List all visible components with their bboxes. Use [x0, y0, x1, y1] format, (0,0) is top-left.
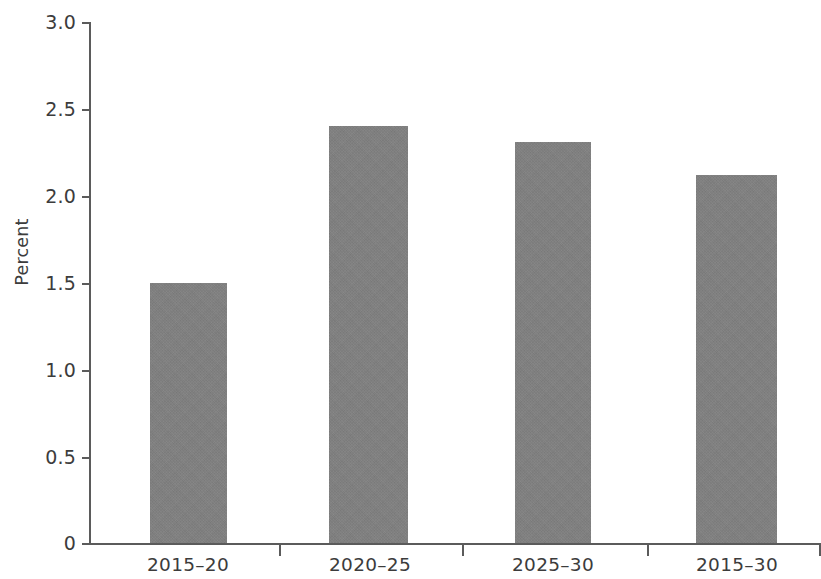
y-tick-label-0: 0: [0, 534, 76, 553]
x-tick-mark-2: [462, 545, 464, 556]
bar-2025-30: [515, 142, 591, 544]
y-axis-title: Percent: [13, 208, 31, 296]
y-tick-label-3-0-wrap: 3.0: [0, 13, 76, 32]
y-tick-label-1-0-wrap: 1.0: [0, 361, 76, 380]
y-tick-label-2-0: 2.0: [0, 187, 76, 206]
y-tick-label-3-0: 3.0: [0, 13, 76, 32]
y-tick-label-2-5: 2.5: [0, 100, 76, 119]
x-tick-mark-3: [647, 545, 649, 556]
y-tick-label-1-0: 1.0: [0, 361, 76, 380]
bar-chart: 3.0 2.5 2.0 1.5 1.0 0.5 0 2015–20 2020–2…: [0, 0, 821, 579]
y-tick-mark-0: [82, 543, 90, 545]
y-tick-mark-3-0: [82, 22, 90, 24]
y-tick-label-0-5: 0.5: [0, 448, 76, 467]
y-tick-mark-2-0: [82, 196, 90, 198]
y-tick-mark-0-5: [82, 457, 90, 459]
y-tick-label-0-5-wrap: 0.5: [0, 448, 76, 467]
x-tick-label-2025-30: 2025–30: [478, 554, 628, 576]
bar-2015-30: [696, 175, 777, 544]
x-axis-line: [89, 543, 821, 545]
y-tick-label-2-5-wrap: 2.5: [0, 100, 76, 119]
y-tick-mark-1-0: [82, 370, 90, 372]
bar-2020-25: [329, 126, 408, 544]
x-tick-label-2015-30: 2015–30: [662, 554, 812, 576]
x-tick-label-2020-25: 2020–25: [295, 554, 445, 576]
x-tick-label-2015-20: 2015–20: [113, 554, 263, 576]
x-tick-mark-1: [279, 545, 281, 556]
y-tick-label-0-wrap: 0: [0, 534, 76, 553]
y-tick-mark-2-5: [82, 109, 90, 111]
y-tick-label-2-0-wrap: 2.0: [0, 187, 76, 206]
bar-2015-20: [150, 283, 227, 544]
y-tick-mark-1-5: [82, 283, 90, 285]
